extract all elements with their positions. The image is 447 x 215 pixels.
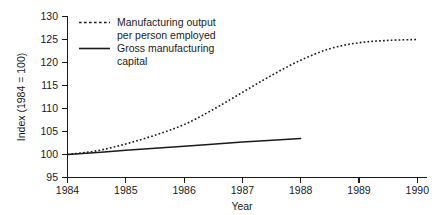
y-axis: 95 100 105 110 115 120 125 130 Index (19… <box>15 10 68 183</box>
x-axis: 1984 1985 1986 1987 1988 1989 1990 Year <box>56 178 429 213</box>
x-tick-label-1989: 1989 <box>347 184 371 196</box>
legend-entry-gross-capital: Gross manufacturing capital <box>79 42 215 67</box>
chart-figure: 95 100 105 110 115 120 125 130 Index (19… <box>0 0 447 215</box>
x-tick-label-1984: 1984 <box>56 184 80 196</box>
y-tick-label-95: 95 <box>46 171 58 183</box>
y-tick-marks <box>62 17 68 178</box>
x-tick-label-1987: 1987 <box>231 184 255 196</box>
line-chart: 95 100 105 110 115 120 125 130 Index (19… <box>0 0 447 215</box>
x-tick-label-1988: 1988 <box>289 184 313 196</box>
x-tick-label-1990: 1990 <box>406 184 430 196</box>
legend-label-manufacturing-output-line2: per person employed <box>117 29 216 41</box>
x-tick-label-1985: 1985 <box>114 184 138 196</box>
x-tick-marks <box>68 178 418 184</box>
series-gross-capital-line <box>68 138 301 154</box>
y-tick-label-130: 130 <box>40 10 58 22</box>
legend-label-gross-capital-line1: Gross manufacturing <box>117 42 215 54</box>
y-tick-label-100: 100 <box>40 148 58 160</box>
x-axis-title: Year <box>231 200 253 212</box>
y-tick-label-105: 105 <box>40 125 58 137</box>
chart-legend: Manufacturing output per person employed… <box>79 16 216 67</box>
y-tick-label-110: 110 <box>41 102 58 114</box>
y-axis-title: Index (1984 = 100) <box>15 53 27 141</box>
legend-entry-manufacturing-output: Manufacturing output per person employed <box>79 16 216 41</box>
x-tick-label-1986: 1986 <box>172 184 196 196</box>
y-tick-label-120: 120 <box>40 56 58 68</box>
legend-label-gross-capital-line2: capital <box>117 55 147 67</box>
y-tick-label-115: 115 <box>41 79 58 91</box>
y-tick-label-125: 125 <box>40 33 58 45</box>
legend-label-manufacturing-output-line1: Manufacturing output <box>117 16 216 28</box>
